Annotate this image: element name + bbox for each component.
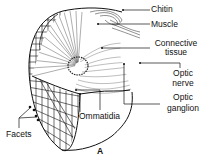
label-optic-ganglion-2: ganglion xyxy=(160,104,206,113)
panel-label: A xyxy=(97,147,103,156)
label-chitin: Chitin xyxy=(151,5,173,14)
label-facets: Facets xyxy=(6,130,32,139)
label-ommatidia: Ommatidia xyxy=(79,112,120,121)
label-optic-ganglion-1: Optic xyxy=(160,93,206,102)
label-optic-nerve-1: Optic xyxy=(164,69,202,78)
label-connective-2: tissue xyxy=(150,48,202,57)
label-optic-nerve-2: nerve xyxy=(164,79,202,88)
label-muscle: Muscle xyxy=(151,20,178,29)
